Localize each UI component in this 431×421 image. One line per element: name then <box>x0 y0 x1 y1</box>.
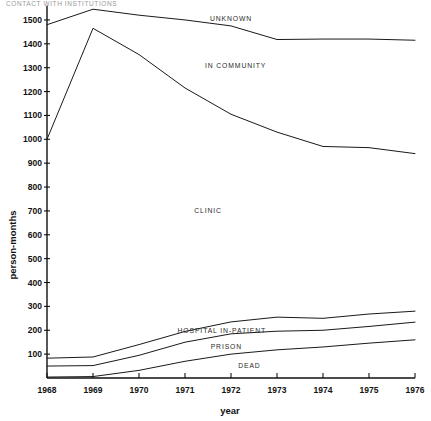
band-label-unknown: UNKNOWN <box>210 15 252 22</box>
y-tick-label: 200 <box>28 325 42 335</box>
y-tick-label: 900 <box>28 158 42 168</box>
y-tick-label: 700 <box>28 206 42 216</box>
y-tick-label: 300 <box>28 301 42 311</box>
figure-caption: CONTACT WITH INSTITUTIONS <box>6 0 117 7</box>
chart-container: CONTACT WITH INSTITUTIONS 10020030040050… <box>0 0 431 421</box>
x-tick-label: 1970 <box>130 385 149 395</box>
x-tick-label: 1974 <box>314 385 333 395</box>
y-axis-tick-labels: 1002003004005006007008009001000110012001… <box>23 15 42 359</box>
x-tick-label: 1971 <box>176 385 195 395</box>
x-axis-tick-labels: 196819691970197119721973197419751976 <box>38 385 425 395</box>
y-tick-label: 500 <box>28 254 42 264</box>
series-band-labels: UNKNOWNIN COMMUNITYCLINICHOSPITAL IN-PAT… <box>177 15 266 369</box>
band-label-hospital-in-patient: HOSPITAL IN-PATIENT <box>177 327 266 334</box>
band-label-dead: DEAD <box>238 362 260 369</box>
y-tick-label: 100 <box>28 349 42 359</box>
in-community-upper-boundary <box>47 28 415 153</box>
band-label-in-community: IN COMMUNITY <box>205 62 266 69</box>
x-tick-label: 1969 <box>84 385 103 395</box>
y-tick-label: 800 <box>28 182 42 192</box>
band-label-prison: PRISON <box>211 343 242 350</box>
y-tick-label: 1500 <box>23 15 42 25</box>
y-axis-title: person-months <box>7 210 18 279</box>
y-tick-label: 400 <box>28 278 42 288</box>
x-tick-label: 1968 <box>38 385 57 395</box>
y-tick-label: 1100 <box>24 110 43 120</box>
y-tick-label: 1300 <box>23 63 42 73</box>
y-tick-label: 600 <box>28 230 42 240</box>
x-tick-label: 1976 <box>406 385 425 395</box>
y-tick-label: 1000 <box>23 134 42 144</box>
x-axis-title: year <box>220 405 240 416</box>
band-label-clinic: CLINIC <box>194 207 222 214</box>
person-months-area-chart: CONTACT WITH INSTITUTIONS 10020030040050… <box>0 0 431 421</box>
x-tick-label: 1975 <box>360 385 379 395</box>
x-tick-label: 1973 <box>268 385 287 395</box>
clinic-upper-boundary <box>47 311 415 358</box>
y-tick-label: 1400 <box>23 39 42 49</box>
unknown-upper-boundary <box>47 9 415 40</box>
y-tick-label: 1200 <box>23 87 42 97</box>
x-tick-label: 1972 <box>222 385 241 395</box>
